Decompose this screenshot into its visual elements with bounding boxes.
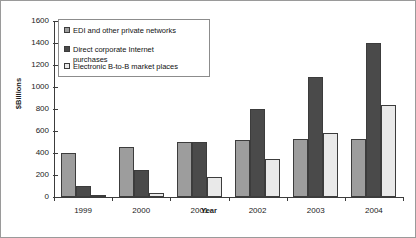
bar[interactable]: [192, 142, 207, 197]
x-tick-mark: [403, 197, 404, 201]
legend-item[interactable]: EDI and other private networks: [64, 26, 176, 36]
x-tick-mark: [229, 197, 230, 201]
bar[interactable]: [351, 139, 366, 197]
y-tick-mark: [53, 131, 58, 132]
bar[interactable]: [265, 159, 280, 198]
y-tick-mark: [53, 109, 58, 110]
chart-figure: $Billions 02004006008001000120014001600 …: [0, 0, 416, 238]
y-tick-label: 1400: [31, 38, 49, 47]
x-axis-title: Year: [1, 206, 416, 215]
legend-label: EDI and other private networks: [73, 26, 176, 36]
bar[interactable]: [235, 140, 250, 197]
y-axis-title: $Billions: [14, 54, 23, 134]
legend-swatch-icon: [64, 27, 70, 33]
bar[interactable]: [293, 139, 308, 197]
bar[interactable]: [177, 142, 192, 197]
bar[interactable]: [119, 147, 134, 197]
bar[interactable]: [323, 133, 338, 197]
legend-item[interactable]: Electronic B-to-B market places: [64, 62, 178, 72]
x-tick-mark: [112, 197, 113, 201]
bar[interactable]: [134, 170, 149, 198]
bar[interactable]: [76, 186, 91, 197]
bar[interactable]: [381, 105, 396, 197]
bar-group: [235, 21, 280, 197]
bar-group: [293, 21, 338, 197]
y-tick-label: 0: [45, 192, 49, 201]
x-tick-mark: [287, 197, 288, 201]
bar-group: [351, 21, 396, 197]
y-tick-label: 1200: [31, 60, 49, 69]
legend-swatch-icon: [64, 63, 70, 69]
y-tick-label: 1000: [31, 82, 49, 91]
legend-label: Electronic B-to-B market places: [73, 62, 178, 72]
bar[interactable]: [61, 153, 76, 197]
bar[interactable]: [149, 193, 164, 197]
y-tick-label: 400: [36, 148, 49, 157]
y-tick-mark: [53, 153, 58, 154]
bar[interactable]: [366, 43, 381, 197]
x-tick-mark: [345, 197, 346, 201]
chart-legend: EDI and other private networksDirect cor…: [58, 19, 210, 77]
bar[interactable]: [91, 195, 106, 197]
y-tick-label: 1600: [31, 16, 49, 25]
bar[interactable]: [308, 77, 323, 197]
legend-swatch-icon: [64, 46, 70, 52]
y-tick-label: 800: [36, 104, 49, 113]
y-tick-label: 200: [36, 170, 49, 179]
bar[interactable]: [207, 177, 222, 197]
bar[interactable]: [250, 109, 265, 197]
x-tick-mark: [54, 197, 55, 201]
x-tick-mark: [170, 197, 171, 201]
y-tick-mark: [53, 175, 58, 176]
y-tick-label: 600: [36, 126, 49, 135]
y-tick-mark: [53, 87, 58, 88]
